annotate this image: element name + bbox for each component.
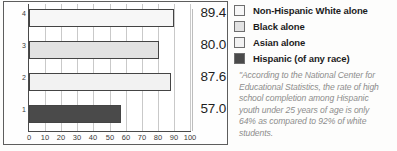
footnote-line: Educational Statistics, the rate of high bbox=[239, 82, 391, 94]
footnote-text: "According to the National Center for Ed… bbox=[239, 70, 391, 140]
y-tick-label: 1 bbox=[22, 106, 26, 114]
x-tick-label: 40 bbox=[89, 133, 97, 142]
chart-region: 4 3 2 1 bbox=[3, 1, 229, 147]
plot-area bbox=[28, 4, 191, 132]
x-tick-label: 90 bbox=[170, 133, 178, 142]
footnote-line: school completion among Hispanic bbox=[239, 93, 391, 105]
legend-item-label: Asian alone bbox=[253, 37, 305, 48]
legend-item-asian-alone[interactable]: Asian alone bbox=[234, 34, 394, 50]
footnote-line: students. bbox=[239, 128, 391, 140]
bar-category-1[interactable] bbox=[29, 105, 121, 123]
value-label-category-4: 89.4 bbox=[201, 6, 226, 20]
x-tick-label: 30 bbox=[73, 133, 81, 142]
y-tick-label: 2 bbox=[22, 74, 26, 82]
value-label-category-2: 87.6 bbox=[201, 70, 226, 84]
legend-item-hispanic-of-any-race[interactable]: Hispanic (of any race) bbox=[234, 50, 394, 66]
legend-item-black-alone[interactable]: Black alone bbox=[234, 18, 394, 34]
x-tick-label: 100 bbox=[184, 133, 197, 142]
bar-category-3[interactable] bbox=[29, 41, 159, 59]
legend-swatch-icon bbox=[234, 53, 245, 64]
x-tick-label: 80 bbox=[154, 133, 162, 142]
x-tick-label: 60 bbox=[122, 133, 130, 142]
bars-layer bbox=[29, 4, 191, 131]
y-tick-label: 3 bbox=[22, 42, 26, 50]
value-labels: 89.4 80.0 87.6 57.0 bbox=[193, 4, 227, 132]
bar-chart-figure: 4 3 2 1 bbox=[0, 0, 397, 151]
x-tick-label: 50 bbox=[106, 133, 114, 142]
value-label-category-3: 80.0 bbox=[201, 38, 226, 52]
x-axis: 0 10 20 30 40 50 60 70 80 90 100 bbox=[28, 133, 192, 144]
y-tick-label: 4 bbox=[22, 10, 26, 18]
x-tick-label: 10 bbox=[41, 133, 49, 142]
footnote-line: 64% as compared to 92% of white bbox=[239, 116, 391, 128]
footnote-line: "According to the National Center for bbox=[239, 70, 391, 82]
y-axis: 4 3 2 1 bbox=[13, 4, 28, 132]
legend: Non-Hispanic White alone Black alone Asi… bbox=[234, 2, 394, 66]
legend-item-label: Non-Hispanic White alone bbox=[253, 5, 368, 16]
bar-category-4[interactable] bbox=[29, 9, 174, 27]
x-tick-label: 0 bbox=[27, 133, 31, 142]
x-tick-label: 20 bbox=[57, 133, 65, 142]
legend-swatch-icon bbox=[234, 5, 245, 16]
footnote-line: youth under 25 years of age is only bbox=[239, 105, 391, 117]
legend-swatch-icon bbox=[234, 37, 245, 48]
bar-category-2[interactable] bbox=[29, 73, 171, 91]
legend-item-label: Black alone bbox=[253, 21, 305, 32]
legend-item-non-hispanic-white-alone[interactable]: Non-Hispanic White alone bbox=[234, 2, 394, 18]
x-tick-label: 70 bbox=[138, 133, 146, 142]
legend-swatch-icon bbox=[234, 21, 245, 32]
legend-item-label: Hispanic (of any race) bbox=[253, 53, 350, 64]
value-label-category-1: 57.0 bbox=[201, 102, 226, 116]
